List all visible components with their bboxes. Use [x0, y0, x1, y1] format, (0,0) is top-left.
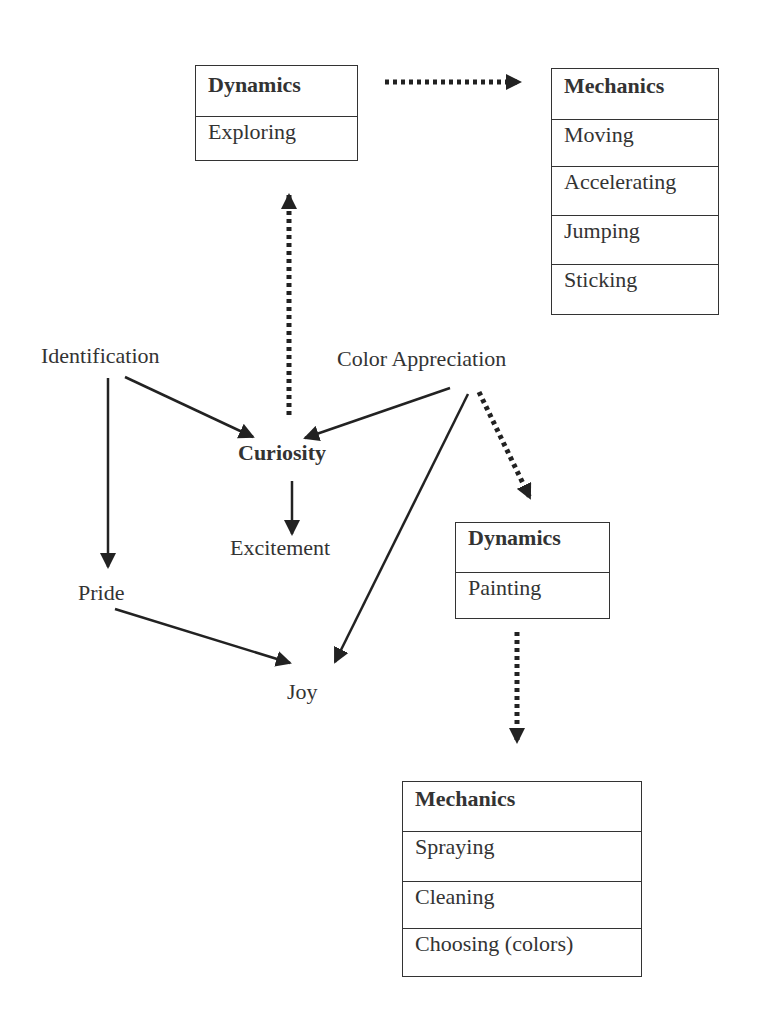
box-header: Mechanics — [552, 69, 718, 119]
node-identification: Identification — [41, 343, 160, 369]
edge-colorapp-to-joy — [335, 394, 468, 662]
node-joy: Joy — [287, 679, 318, 705]
box-item: Spraying — [403, 831, 641, 881]
node-excitement: Excitement — [230, 535, 330, 561]
node-color-appreciation: Color Appreciation — [337, 346, 506, 372]
box-item: Accelerating — [552, 166, 718, 215]
edge-colorapp-to-curiosity — [305, 388, 450, 438]
box-header: Dynamics — [196, 66, 357, 116]
box-item: Sticking — [552, 264, 718, 313]
box-item: Choosing (colors) — [403, 928, 641, 975]
node-pride: Pride — [78, 580, 124, 606]
box-item: Painting — [456, 572, 609, 617]
box-item: Cleaning — [403, 881, 641, 928]
mechanics-bottom-box: Mechanics Spraying Cleaning Choosing (co… — [402, 781, 642, 977]
box-item: Moving — [552, 119, 718, 166]
box-header: Mechanics — [403, 782, 641, 831]
mechanics-top-box: Mechanics Moving Accelerating Jumping St… — [551, 68, 719, 315]
dynamics-exploring-box: Dynamics Exploring — [195, 65, 358, 161]
edge-identification-to-curiosity — [125, 377, 253, 437]
dynamics-painting-box: Dynamics Painting — [455, 522, 610, 619]
edge-colorapp-to-painting — [479, 392, 530, 498]
box-header: Dynamics — [456, 523, 609, 572]
node-curiosity: Curiosity — [238, 440, 326, 466]
box-item: Jumping — [552, 215, 718, 264]
box-item: Exploring — [196, 116, 357, 160]
edge-pride-to-joy — [115, 609, 290, 663]
